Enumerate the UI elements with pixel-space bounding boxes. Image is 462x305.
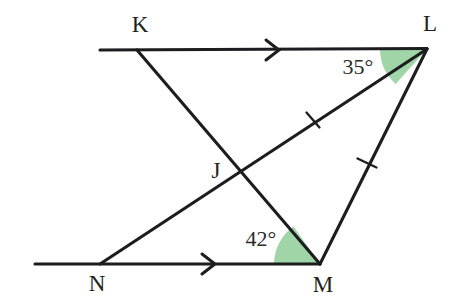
vertex-label-J: J <box>212 158 221 183</box>
geometry-figure: K L J N M 35° 42° <box>0 0 462 305</box>
segment-K-M <box>137 50 320 264</box>
vertex-label-N: N <box>89 271 106 296</box>
ray-through-K-toward-L <box>100 49 427 51</box>
vertex-label-M: M <box>313 272 333 297</box>
angle-sector-at-M <box>274 227 320 265</box>
angle-label-at-L: 35° <box>343 54 374 79</box>
geometry-canvas: K L J N M 35° 42° <box>0 0 462 305</box>
vertex-label-L: L <box>423 11 437 36</box>
vertex-label-K: K <box>132 12 149 37</box>
angle-label-at-M: 42° <box>246 226 277 251</box>
segment-L-M <box>320 49 427 264</box>
